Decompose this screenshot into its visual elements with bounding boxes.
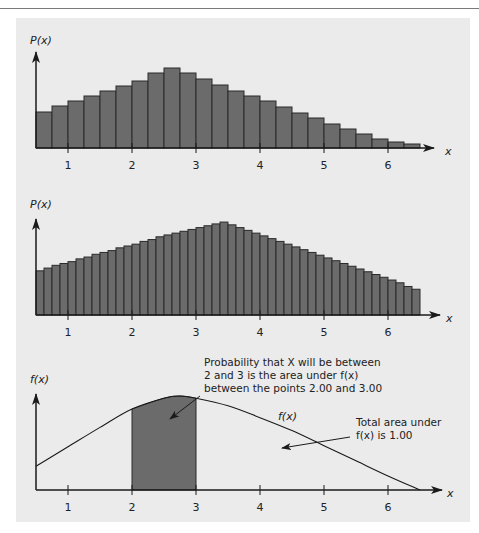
- bar: [44, 268, 52, 315]
- x-tick-label: 4: [257, 326, 264, 339]
- bar: [316, 255, 324, 315]
- bar: [332, 261, 340, 315]
- bar: [36, 271, 44, 315]
- bar: [92, 254, 100, 315]
- top-y-label: P(x): [30, 34, 52, 47]
- middle-x-label: x: [445, 312, 453, 325]
- bar: [84, 96, 100, 148]
- bar: [412, 289, 420, 315]
- annotation-line: Probability that X will be between: [204, 356, 381, 368]
- x-tick-label: 3: [193, 159, 200, 172]
- bar: [324, 124, 340, 148]
- bar: [76, 259, 84, 315]
- bar: [220, 222, 228, 315]
- bar: [308, 118, 324, 148]
- bar: [212, 224, 220, 315]
- bar: [124, 246, 132, 315]
- bar: [140, 241, 148, 315]
- bar: [68, 101, 84, 148]
- bar: [252, 233, 260, 315]
- bar: [268, 239, 276, 315]
- bar: [292, 247, 300, 315]
- shaded-area: [132, 396, 196, 490]
- x-tick-label: 2: [129, 159, 136, 172]
- bar: [156, 237, 164, 315]
- top-bars: [36, 68, 420, 148]
- bar: [108, 251, 116, 315]
- figure-svg: 123456 P(x) x 123456 P(x) x 123456 f(x) …: [0, 0, 479, 533]
- bar: [372, 139, 388, 148]
- density-curve: [36, 396, 420, 490]
- bar: [164, 235, 172, 315]
- x-tick-label: 6: [385, 501, 392, 514]
- bar: [228, 225, 236, 315]
- middle-y-label: P(x): [30, 198, 52, 211]
- bar: [356, 269, 364, 315]
- bar: [276, 107, 292, 148]
- bar: [212, 85, 228, 148]
- bar: [132, 244, 140, 315]
- x-tick-label: 1: [65, 501, 72, 514]
- x-tick-label: 5: [321, 501, 328, 514]
- bar: [260, 236, 268, 315]
- bottom-y-label: f(x): [30, 373, 49, 386]
- bar: [148, 240, 156, 315]
- bar: [116, 86, 132, 148]
- annotation-line: f(x) is 1.00: [356, 429, 413, 441]
- bar: [60, 263, 68, 315]
- bar: [244, 230, 252, 315]
- bar: [236, 228, 244, 315]
- x-tick-label: 2: [129, 501, 136, 514]
- middle-histogram: 123456 P(x) x: [30, 198, 453, 339]
- bar: [84, 257, 92, 315]
- bar: [364, 272, 372, 315]
- bar: [284, 244, 292, 315]
- bar: [52, 106, 68, 148]
- bar: [396, 283, 404, 315]
- bar: [292, 113, 308, 148]
- bar: [388, 142, 404, 148]
- bar: [116, 248, 124, 315]
- annotation-total-area: Total area under f(x) is 1.00: [355, 416, 445, 441]
- bar: [340, 263, 348, 315]
- x-tick-label: 4: [257, 501, 264, 514]
- bar: [324, 258, 332, 315]
- bar: [260, 101, 276, 148]
- bar: [244, 96, 260, 148]
- bar: [340, 129, 356, 148]
- top-x-label: x: [444, 145, 452, 158]
- bar: [180, 73, 196, 148]
- top-histogram: 123456 P(x) x: [30, 34, 452, 172]
- x-tick-label: 3: [193, 326, 200, 339]
- bar: [172, 233, 180, 315]
- pointer-arrow-icon: [282, 437, 350, 448]
- bar: [100, 252, 108, 315]
- bar: [68, 262, 76, 315]
- middle-bars: [36, 222, 420, 315]
- bottom-x-label: x: [446, 487, 454, 500]
- x-tick-label: 2: [129, 326, 136, 339]
- bar: [348, 266, 356, 315]
- bar: [164, 68, 180, 148]
- annotation-line: between the points 2.00 and 3.00: [204, 382, 382, 394]
- bar: [132, 81, 148, 148]
- bar: [100, 91, 116, 148]
- x-tick-label: 4: [257, 159, 264, 172]
- x-tick-label: 1: [65, 326, 72, 339]
- bottom-density: 123456 f(x) x f(x) Probability that X wi…: [30, 356, 454, 514]
- bar: [300, 250, 308, 315]
- bar: [356, 134, 372, 148]
- bar: [180, 231, 188, 315]
- bar: [228, 91, 244, 148]
- bar: [204, 226, 212, 315]
- bar: [36, 112, 52, 148]
- bar: [188, 229, 196, 315]
- x-tick-label: 6: [385, 326, 392, 339]
- bar: [196, 79, 212, 148]
- curve-label: f(x): [278, 410, 297, 423]
- bar: [404, 286, 412, 315]
- annotation-line: Total area under: [355, 416, 442, 428]
- x-tick-label: 5: [321, 326, 328, 339]
- x-tick-label: 6: [385, 159, 392, 172]
- bar: [276, 241, 284, 315]
